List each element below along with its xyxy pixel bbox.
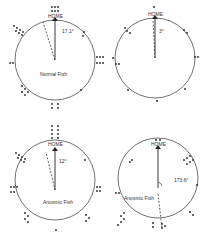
home-label: HOME: [148, 12, 163, 17]
mean-vector-line: [158, 194, 162, 228]
diagram-canvas: [0, 0, 206, 237]
home-label: HOME: [48, 14, 63, 19]
angle-arc: [158, 182, 162, 186]
angle-label: 173.6°: [174, 178, 189, 183]
home-label: HOME: [151, 142, 166, 147]
data-point-arrows: [112, 6, 199, 102]
angle-label: 12°: [59, 159, 67, 164]
mean-vector-line: [46, 152, 55, 190]
panel-title: Anosmic Fish: [43, 200, 73, 205]
panel-title: Normal Fish: [40, 72, 67, 77]
home-label: HOME: [48, 142, 63, 147]
angle-label: 3°: [159, 29, 164, 34]
angle-label: 17.1°: [62, 29, 74, 34]
data-point-arrows: [9, 6, 104, 109]
panel-unlabeled: [112, 6, 199, 102]
mean-vector-line: [43, 22, 55, 60]
panel-title: Anosmic Fish: [124, 196, 154, 201]
panel-anosmic-fish: [115, 138, 198, 229]
panel-normal-fish: [9, 6, 104, 109]
